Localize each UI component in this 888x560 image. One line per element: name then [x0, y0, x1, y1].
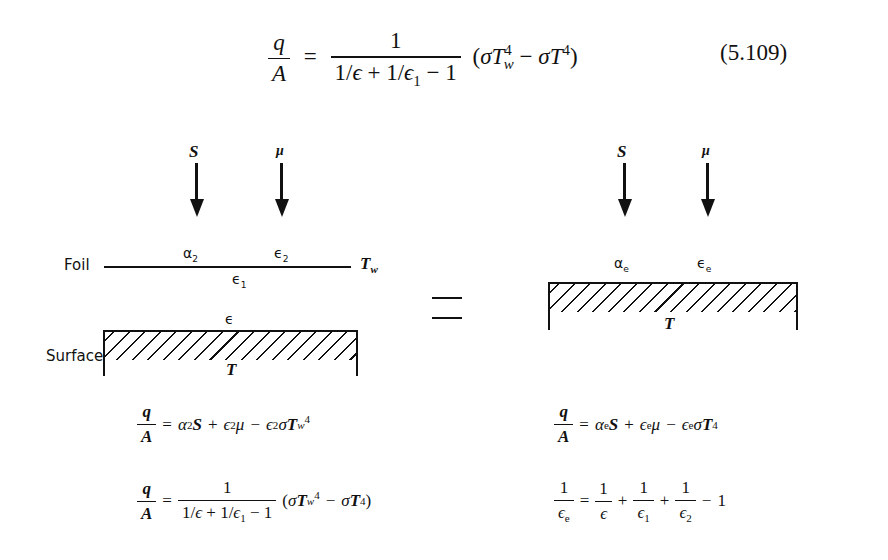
eq-solar-arrow-shaft: [623, 163, 626, 201]
lhs-fraction: q A: [268, 30, 290, 88]
foil-line: [104, 266, 351, 268]
foil-eps1-label: ϵ1: [232, 271, 246, 290]
solar-flux-label: S: [189, 142, 198, 162]
foil-temp-label: Tw: [360, 254, 378, 275]
eq-surface-temp-label: T: [664, 314, 674, 334]
solar-arrow-shaft: [195, 163, 198, 201]
eq-eps-e-label: ϵe: [697, 255, 711, 274]
equivalent-balance-equation: qA = αeS + ϵeμ − ϵeσT4: [554, 402, 718, 447]
surface-eps-label: ϵ: [225, 311, 234, 327]
surface-temp-label: T: [226, 360, 236, 380]
surface-left-wall: [103, 330, 105, 376]
ir-flux-label: μ: [276, 143, 284, 159]
eq-ir-arrow-shaft: [706, 163, 709, 201]
eq-surface-right-wall: [796, 282, 798, 330]
eq-surface-hatch: [549, 282, 798, 312]
surface-hatch: [104, 330, 358, 360]
foil-exchange-equation: qA = 1 1/ϵ + 1/ϵ1 − 1 (σTw4 − σT4): [137, 478, 371, 525]
rhs-tail: (σT4w − σT4): [473, 44, 578, 69]
surface-label: Surface: [46, 347, 103, 365]
eq-alpha-e-label: αe: [614, 255, 629, 274]
eq-ir-flux-label: μ: [702, 143, 710, 159]
foil-balance-equation: qA = α2S + ϵ2μ − ϵ2σTw4: [137, 402, 310, 447]
ir-arrow-shaft: [280, 163, 283, 201]
equivalence-bar-bottom: [432, 317, 462, 319]
main-equation: q A = 1 1/ϵ + 1/ϵ1 − 1 (σT4w − σT4): [268, 28, 578, 88]
eq-solar-arrow-icon: [618, 199, 632, 217]
foil-eps2-label: ϵ2: [274, 245, 288, 264]
ir-arrow-icon: [275, 199, 289, 217]
eq-solar-flux-label: S: [617, 142, 626, 162]
rhs-fraction: 1 1/ϵ + 1/ϵ1 − 1: [331, 28, 461, 89]
equivalence-bar-top: [432, 297, 462, 299]
solar-arrow-icon: [190, 199, 204, 217]
surface-right-wall: [356, 330, 358, 376]
foil-label: Foil: [64, 256, 90, 274]
foil-alpha2-label: α2: [183, 245, 198, 264]
eq-ir-arrow-icon: [701, 199, 715, 217]
equation-number: (5.109): [720, 40, 787, 66]
equivalent-emissivity-equation: 1ϵe = 1ϵ + 1ϵ1 + 1ϵ2 −1: [554, 478, 726, 525]
eq-surface-left-wall: [548, 282, 550, 330]
